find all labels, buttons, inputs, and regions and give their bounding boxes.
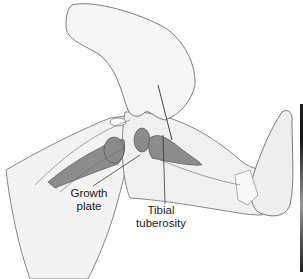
growth-plate-label: Growth plate bbox=[64, 187, 114, 213]
tibia-epiphysis bbox=[134, 128, 150, 152]
tibial-tuberosity-label-line1: Tibial bbox=[126, 204, 196, 217]
knee-illustration bbox=[0, 0, 303, 279]
foot-shape bbox=[251, 110, 293, 215]
growth-plate-label-line1: Growth bbox=[64, 187, 114, 200]
tibial-tuberosity-label-line2: tuberosity bbox=[126, 217, 196, 230]
edge-bar bbox=[300, 104, 303, 272]
hand bbox=[66, 4, 195, 120]
tibial-tuberosity-label: Tibial tuberosity bbox=[126, 204, 196, 230]
growth-plate-label-line2: plate bbox=[64, 200, 114, 213]
